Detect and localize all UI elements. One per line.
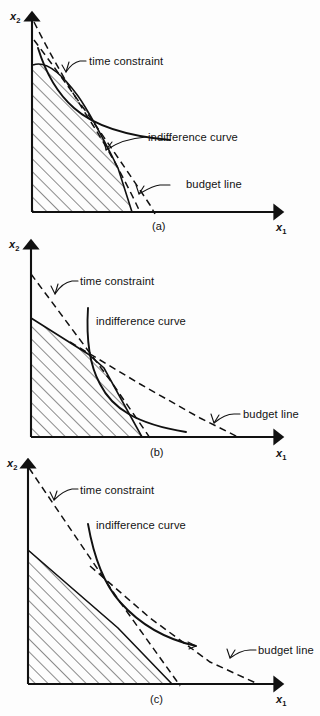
y-axis-label-c: x2 xyxy=(6,458,17,472)
indifference-curve-label-c: indifference curve xyxy=(96,519,186,531)
panel-c-plot: x2 x1 time constraint indifference curve… xyxy=(0,458,320,716)
panel-b: x2 x1 time constraint indifference curve… xyxy=(0,232,320,470)
budget-line-leader-tip-b xyxy=(211,414,219,423)
feasible-region-a xyxy=(33,64,132,212)
panel-caption-a: (a) xyxy=(152,220,165,232)
budget-line-label-a: budget line xyxy=(186,178,242,190)
y-axis-label-a: x2 xyxy=(9,10,20,25)
y-axis-label-b: x2 xyxy=(8,238,19,253)
panel-b-plot: x2 x1 time constraint indifference curve… xyxy=(0,232,320,470)
time-constraint-leader-b xyxy=(55,281,78,294)
indifference-curve-label-a: indifference curve xyxy=(148,131,238,143)
budget-line-leader-tip-c xyxy=(227,649,235,658)
budget-line-leader-b xyxy=(214,414,240,423)
time-constraint-leader-tip-b xyxy=(51,284,58,294)
panel-a-plot: x2 x1 time constraint indifference curve… xyxy=(0,0,320,240)
time-constraint-label-b: time constraint xyxy=(80,275,155,287)
panel-c: x2 x1 time constraint indifference curve… xyxy=(0,458,320,716)
panel-a: x2 x1 time constraint indifference curve… xyxy=(0,0,320,240)
time-constraint-leader-c xyxy=(54,489,78,500)
time-constraint-leader-tip-a xyxy=(62,62,69,72)
time-constraint-label-a: time constraint xyxy=(89,55,164,67)
feasible-region-b xyxy=(31,318,142,437)
budget-line-label-c: budget line xyxy=(258,644,314,656)
time-constraint-label-c: time constraint xyxy=(80,484,155,496)
figure-sheet: x2 x1 time constraint indifference curve… xyxy=(0,0,320,716)
budget-line-label-b: budget line xyxy=(243,408,299,420)
indifference-curve-label-b: indifference curve xyxy=(96,315,186,327)
panel-caption-c: (c) xyxy=(150,693,163,705)
panel-caption-b: (b) xyxy=(150,446,163,458)
x-axis-label-c: x1 xyxy=(275,693,287,708)
